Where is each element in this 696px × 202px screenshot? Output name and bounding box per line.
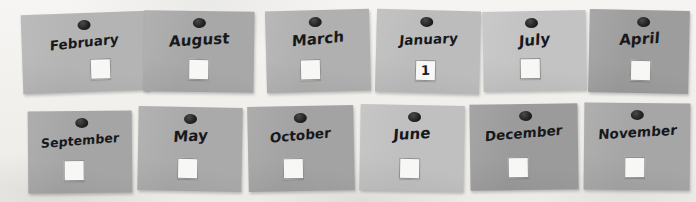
pin-dot-icon [519, 111, 532, 121]
month-checkbox[interactable] [90, 58, 112, 80]
pin-dot-icon [637, 17, 650, 27]
month-label: September [28, 131, 132, 150]
month-label-text: January [398, 30, 458, 49]
month-checkbox[interactable] [177, 158, 198, 179]
pin-dot-icon [309, 17, 322, 27]
month-checkbox[interactable] [282, 158, 303, 179]
month-label: October [248, 125, 354, 145]
month-label: February [21, 31, 148, 53]
month-checkbox[interactable] [520, 58, 541, 79]
month-card-february[interactable]: February [21, 11, 150, 94]
month-checkbox[interactable] [399, 158, 420, 179]
month-label: April [589, 29, 689, 49]
month-label: July [483, 30, 586, 50]
pin-dot-icon [420, 17, 433, 27]
month-label-text: November [597, 122, 677, 143]
month-label: August [144, 30, 254, 50]
pin-dot-icon [184, 114, 197, 124]
month-card-december[interactable]: December [469, 103, 578, 190]
month-label-text: August [168, 29, 230, 50]
month-label-text: June [393, 124, 432, 144]
month-checkbox[interactable] [507, 157, 528, 178]
month-checkbox[interactable] [63, 160, 84, 181]
pin-dot-icon [525, 18, 538, 28]
pin-dot-icon [75, 118, 88, 128]
month-card-april[interactable]: April [588, 9, 690, 94]
month-label-text: April [618, 29, 660, 49]
month-card-august[interactable]: August [143, 10, 254, 93]
pin-dot-icon [193, 18, 206, 28]
month-card-may[interactable]: May [137, 106, 242, 192]
pin-dot-icon [294, 113, 307, 123]
month-label-text: September [40, 130, 119, 151]
month-checkbox[interactable] [630, 60, 651, 81]
pin-dot-icon [77, 20, 90, 30]
month-card-september[interactable]: September [28, 111, 133, 194]
month-card-june[interactable]: June [359, 104, 464, 192]
month-card-october[interactable]: October [247, 105, 355, 192]
month-label: June [360, 124, 464, 144]
checkbox-mark: 1 [421, 64, 430, 77]
month-label-text: May [172, 126, 208, 146]
month-checkbox[interactable] [624, 157, 645, 178]
month-cards-board: FebruaryAugustMarchJanuary1JulyAprilSept… [0, 0, 696, 202]
month-label: March [265, 29, 369, 50]
month-label: May [138, 126, 242, 146]
month-label: January [376, 29, 480, 50]
month-card-july[interactable]: July [482, 10, 586, 92]
month-label-text: October [270, 124, 332, 146]
month-checkbox[interactable] [299, 59, 321, 81]
month-card-november[interactable]: November [584, 102, 691, 190]
month-checkbox[interactable]: 1 [415, 60, 437, 82]
month-card-march[interactable]: March [265, 9, 371, 94]
month-label-text: February [50, 30, 119, 53]
month-label-text: March [291, 27, 344, 50]
month-label-text: July [518, 30, 550, 51]
month-label: December [470, 123, 578, 143]
month-checkbox[interactable] [188, 59, 209, 80]
pin-dot-icon [408, 112, 421, 122]
month-label-text: December [485, 122, 563, 145]
month-label: November [584, 122, 690, 141]
pin-dot-icon [631, 110, 644, 120]
month-card-january[interactable]: January1 [375, 9, 481, 95]
